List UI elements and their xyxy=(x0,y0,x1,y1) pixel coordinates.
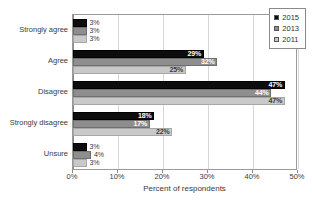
x-axis-title: Percent of respondents xyxy=(72,184,297,193)
bar-value-label: 17% xyxy=(134,120,148,128)
bar-2015-disagree xyxy=(73,81,285,89)
bar-row: 44% xyxy=(73,89,298,97)
legend-item-2011: 2011 xyxy=(274,34,299,45)
x-tick-mark xyxy=(162,170,163,173)
bar-value-label: 18% xyxy=(138,112,152,120)
plot-area: 3%3%3%29%32%25%47%44%47%18%17%22%3%4%3% xyxy=(72,14,297,170)
bar-row: 32% xyxy=(73,58,298,66)
legend-label: 2011 xyxy=(282,35,298,44)
legend-item-2013: 2013 xyxy=(274,23,299,34)
bar-row: 4% xyxy=(73,151,298,159)
bar-row: 3% xyxy=(73,35,298,43)
x-tick-label: 20% xyxy=(154,172,169,181)
bar-2011-disagree xyxy=(73,97,285,105)
bar-2013-strongly-agree xyxy=(73,27,87,35)
x-tick-label: 0% xyxy=(67,172,78,181)
bar-value-label: 4% xyxy=(94,151,104,159)
bar-row: 25% xyxy=(73,66,298,74)
x-tick-mark xyxy=(252,170,253,173)
bar-value-label: 3% xyxy=(90,27,100,35)
legend-label: 2013 xyxy=(282,24,299,33)
bar-row: 3% xyxy=(73,27,298,35)
category-label-disagree: Disagree xyxy=(0,87,68,96)
category-label-strongly-disagree: Strongly disagree xyxy=(0,118,68,127)
category-label-agree: Agree xyxy=(0,56,68,65)
bar-value-label: 3% xyxy=(90,19,100,27)
bar-2011-strongly-agree xyxy=(73,35,87,43)
x-tick-label: 10% xyxy=(109,172,124,181)
bar-row: 47% xyxy=(73,97,298,105)
legend-swatch-icon xyxy=(274,37,279,42)
bar-row: 18% xyxy=(73,112,298,120)
bar-value-label: 3% xyxy=(90,35,100,43)
x-tick-label: 50% xyxy=(289,172,304,181)
bar-2011-unsure xyxy=(73,159,87,167)
bar-2015-agree xyxy=(73,50,204,58)
bar-2015-unsure xyxy=(73,143,87,151)
bar-2015-strongly-agree xyxy=(73,19,87,27)
bar-value-label: 29% xyxy=(188,50,202,58)
bar-chart: 3%3%3%29%32%25%47%44%47%18%17%22%3%4%3% … xyxy=(0,0,312,200)
bar-row: 29% xyxy=(73,50,298,58)
x-tick-mark xyxy=(207,170,208,173)
bar-value-label: 3% xyxy=(90,159,100,167)
bar-row: 22% xyxy=(73,128,298,136)
bar-value-label: 44% xyxy=(255,89,269,97)
bar-row: 3% xyxy=(73,19,298,27)
x-tick-label: 30% xyxy=(199,172,214,181)
x-tick-mark xyxy=(117,170,118,173)
bar-value-label: 32% xyxy=(201,58,215,66)
bar-row: 47% xyxy=(73,81,298,89)
legend-item-2015: 2015 xyxy=(274,12,299,23)
category-label-unsure: Unsure xyxy=(0,149,68,158)
legend: 2015 2013 2011 xyxy=(269,8,306,49)
legend-swatch-icon xyxy=(274,26,279,31)
x-tick-label: 40% xyxy=(244,172,259,181)
bar-row: 3% xyxy=(73,143,298,151)
bar-value-label: 3% xyxy=(90,143,100,151)
bar-value-label: 22% xyxy=(156,128,170,136)
bar-2013-disagree xyxy=(73,89,271,97)
legend-label: 2015 xyxy=(282,13,299,22)
bar-value-label: 47% xyxy=(269,81,283,89)
category-label-strongly-agree: Strongly agree xyxy=(0,25,68,34)
x-tick-mark xyxy=(297,170,298,173)
legend-swatch-icon xyxy=(274,15,279,20)
bar-value-label: 47% xyxy=(269,97,283,105)
x-tick-mark xyxy=(72,170,73,173)
bar-2013-agree xyxy=(73,58,217,66)
bar-row: 3% xyxy=(73,159,298,167)
bar-2013-unsure xyxy=(73,151,91,159)
bar-value-label: 25% xyxy=(170,66,184,74)
bar-row: 17% xyxy=(73,120,298,128)
